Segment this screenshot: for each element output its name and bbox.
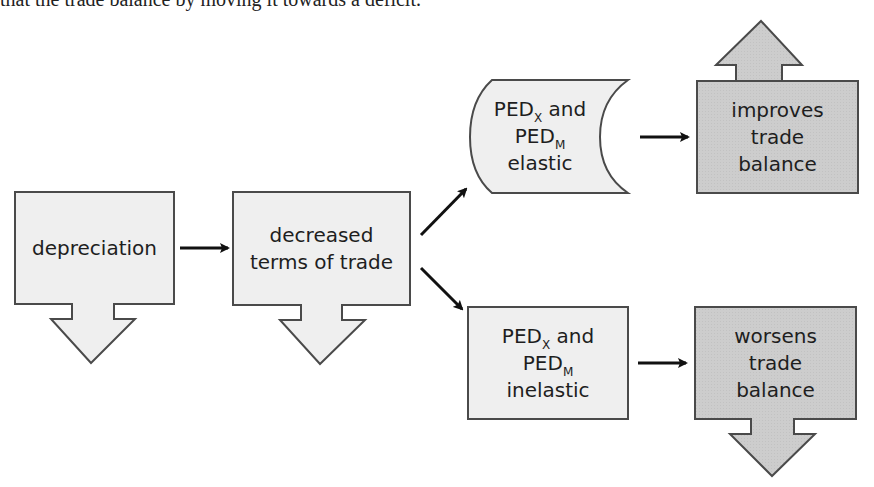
worsens-line-1: worsens [734, 323, 817, 350]
elastic-label: PEDX and PEDM elastic [470, 80, 610, 193]
improves-line-1: improves [731, 97, 823, 124]
terms-line-2: terms of trade [250, 249, 393, 276]
elastic-line-1: PEDX and [494, 96, 586, 123]
arrow-terms-to-inelastic [421, 268, 462, 309]
depreciation-text: depreciation [32, 235, 157, 262]
inelastic-line-1: PEDX and [502, 323, 594, 350]
inelastic-label: PEDX and PEDM inelastic [468, 307, 628, 419]
worsens-label: worsens trade balance [695, 307, 856, 419]
elastic-line-2: PEDM [515, 123, 565, 150]
ped-text: PED [515, 124, 555, 148]
arrow-terms-to-elastic [421, 189, 466, 235]
inelastic-line-2: PEDM [523, 350, 573, 377]
terms-line-1: decreased [270, 222, 374, 249]
improves-label: improves trade balance [697, 81, 858, 193]
and-text: and [542, 97, 586, 121]
elastic-line-3: elastic [508, 150, 573, 177]
improves-line-2: trade [751, 124, 804, 151]
ped-text: PED [523, 351, 563, 375]
ped-text: PED [494, 97, 534, 121]
improves-line-3: balance [738, 151, 817, 178]
depreciation-label: depreciation [15, 192, 174, 304]
worsens-line-3: balance [736, 377, 815, 404]
and-text: and [550, 324, 594, 348]
terms-of-trade-label: decreased terms of trade [233, 192, 410, 305]
worsens-line-2: trade [749, 350, 802, 377]
inelastic-line-3: inelastic [506, 377, 589, 404]
ped-text: PED [502, 324, 542, 348]
